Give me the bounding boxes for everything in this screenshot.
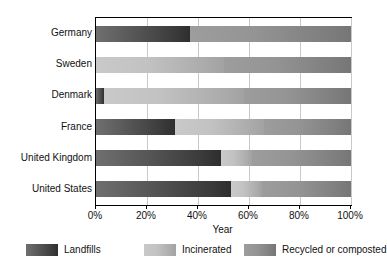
bar-segment-landfills [96, 26, 190, 42]
bar-segment-incinerated [221, 150, 252, 166]
bar-row [96, 26, 351, 42]
x-axis-tick-label: 20% [124, 210, 168, 222]
y-axis-label: United Kingdom [0, 152, 92, 163]
x-axis-tick-label: 100% [328, 210, 372, 222]
bar-segment-recycled [224, 57, 352, 73]
bar-row [96, 119, 351, 135]
bar-segment-recycled [264, 119, 351, 135]
landfills-swatch [26, 244, 58, 256]
x-axis-tick [95, 205, 96, 209]
bar-segment-recycled [190, 26, 351, 42]
x-axis-tick-label: 80% [277, 210, 321, 222]
bar-segment-incinerated [175, 119, 264, 135]
bar-row [96, 88, 351, 104]
bar-row [96, 181, 351, 197]
bar-segment-landfills [96, 150, 221, 166]
bar-segment-incinerated [96, 57, 224, 73]
x-axis-tick-label: 40% [175, 210, 219, 222]
legend-label: Recycled or composted [282, 244, 387, 256]
bar-row [96, 150, 351, 166]
y-axis-label: Germany [0, 27, 92, 38]
x-axis-tick [248, 205, 249, 209]
bar-segment-recycled [252, 150, 351, 166]
bar-segment-recycled [244, 88, 351, 104]
y-axis-label: France [0, 121, 92, 132]
recycled-swatch [244, 244, 276, 256]
y-axis-label: United States [0, 183, 92, 194]
legend-label: Incinerated [182, 244, 231, 256]
x-axis-tick [299, 205, 300, 209]
plot-area [95, 17, 352, 206]
y-axis-label: Sweden [0, 58, 92, 69]
gridline [351, 18, 352, 205]
bar-segment-incinerated [104, 88, 244, 104]
legend-item: Landfills [26, 243, 101, 257]
legend-item: Incinerated [144, 243, 231, 257]
x-axis-tick-label: 60% [226, 210, 270, 222]
x-axis-tick [146, 205, 147, 209]
bar-segment-recycled [262, 181, 351, 197]
bars-layer [96, 18, 351, 205]
bar-row [96, 57, 351, 73]
bar-segment-landfills [96, 181, 231, 197]
incinerated-swatch [144, 244, 176, 256]
bar-segment-landfills [96, 119, 175, 135]
x-axis-tick-label: 0% [73, 210, 117, 222]
x-axis-tick [350, 205, 351, 209]
x-axis-title: Year [95, 224, 350, 235]
bar-segment-landfills [96, 88, 104, 104]
legend-label: Landfills [64, 244, 101, 256]
bar-segment-incinerated [231, 181, 262, 197]
legend-item: Recycled or composted [244, 243, 387, 257]
chart-legend: LandfillsIncineratedRecycled or composte… [26, 243, 366, 259]
x-axis-tick [197, 205, 198, 209]
y-axis-label: Denmark [0, 89, 92, 100]
